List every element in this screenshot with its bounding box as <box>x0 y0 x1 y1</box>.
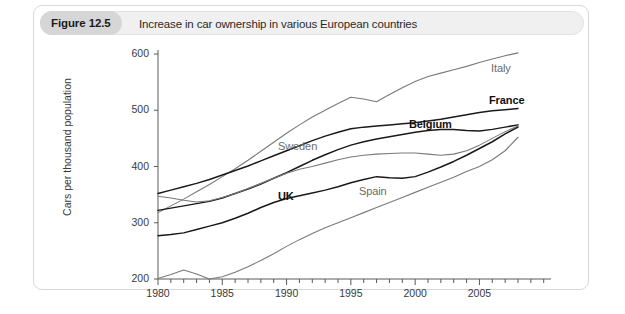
figure-caption: Increase in car ownership in various Eur… <box>139 12 417 36</box>
x-tick-label: 1995 <box>329 287 373 299</box>
series-label-uk: UK <box>278 190 294 202</box>
x-tick-label: 2000 <box>393 287 437 299</box>
series-label-italy: Italy <box>491 62 511 74</box>
x-tick-label: 2005 <box>457 287 501 299</box>
y-tick-label: 600 <box>115 47 149 59</box>
series-line-sweden <box>158 126 518 202</box>
series-label-belgium: Belgium <box>409 118 452 130</box>
chart-plot-area: Cars per thousand population 20030040050… <box>34 36 590 291</box>
x-tick-label: 1980 <box>136 287 180 299</box>
figure-card: Figure 12.5 Increase in car ownership in… <box>33 5 589 290</box>
series-line-spain <box>158 137 518 279</box>
y-tick-label: 300 <box>115 216 149 228</box>
series-label-sweden: Sweden <box>278 140 317 152</box>
figure-number-badge: Figure 12.5 <box>40 11 122 35</box>
y-axis-title: Cars per thousand population <box>61 67 73 227</box>
series-line-uk <box>158 127 518 236</box>
figure-header-bar: Figure 12.5 Increase in car ownership in… <box>40 11 584 35</box>
x-tick-label: 1990 <box>265 287 309 299</box>
y-tick-label: 500 <box>115 103 149 115</box>
series-label-spain: Spain <box>359 185 387 197</box>
y-tick-label: 400 <box>115 160 149 172</box>
x-tick-label: 1985 <box>200 287 244 299</box>
y-tick-label: 200 <box>115 272 149 284</box>
series-label-france: France <box>489 94 524 106</box>
series-line-belgium <box>158 125 518 211</box>
